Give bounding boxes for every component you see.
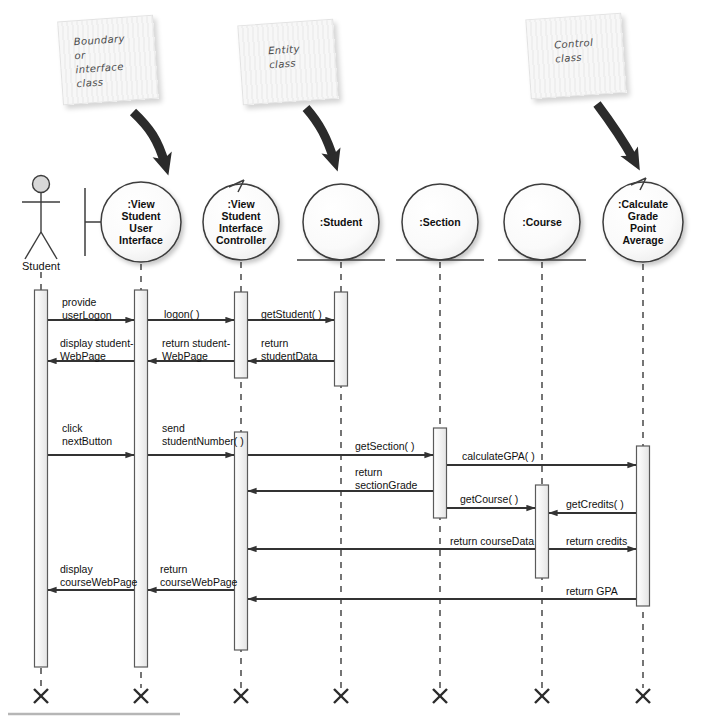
- note-control: Control class: [525, 13, 626, 100]
- msg-return-credits-label: return credits: [566, 535, 627, 548]
- note-boundary: Boundary or interface class: [57, 15, 159, 105]
- terminator-view-student-interface-controller: [234, 689, 248, 703]
- terminator-view-student-user-interface: [134, 689, 148, 703]
- note-arrow-control: [597, 104, 634, 160]
- terminator-calculate-grade-point-average: [636, 689, 650, 703]
- msg-display-studentwebpage-label: display student- WebPage: [60, 337, 134, 362]
- actor-student-actor: [22, 176, 60, 260]
- terminator-course: [535, 689, 549, 703]
- lifeline-head-view-student-user-interface: [85, 182, 181, 262]
- msg-send-studentnumber-label: send studentNumber( ): [162, 422, 244, 447]
- sequence-diagram-canvas: Boundary or interface classEntity classC…: [0, 0, 704, 723]
- terminator-student: [334, 689, 348, 703]
- msg-return-gpa-label: return GPA: [566, 585, 618, 598]
- msg-return-coursewebpage-label: return courseWebPage: [160, 563, 237, 588]
- lifeline-terminators: [34, 689, 650, 703]
- note-pointer-arrows: [133, 104, 634, 164]
- activation-bar-view-student-user-interface-1: [135, 290, 148, 667]
- lifeline-heads: [22, 176, 683, 263]
- note-entity-text: Entity class: [268, 42, 301, 72]
- msg-display-coursewebpage-label: display courseWebPage: [60, 563, 137, 588]
- note-arrow-entity: [306, 108, 334, 160]
- note-control-text: Control class: [554, 36, 595, 67]
- note-boundary-text: Boundary or interface class: [73, 32, 128, 91]
- msg-return-sectiongrade-label: return sectionGrade: [355, 466, 417, 491]
- msg-return-coursedata-label: return courseData: [450, 535, 534, 548]
- lifeline-head-view-student-interface-controller: [203, 180, 279, 260]
- msg-return-studentdata-label: return studentData: [261, 337, 318, 362]
- msg-provide-userlogon-label: provide userLogon: [62, 296, 112, 321]
- msg-logon-label: logon( ): [164, 308, 200, 321]
- msg-getsection-label: getSection( ): [355, 440, 415, 453]
- msg-getcredits-label: getCredits( ): [566, 498, 624, 511]
- lifeline-head-student: [297, 184, 385, 260]
- activation-bar-section-5: [434, 428, 447, 518]
- msg-calculategpa-label: calculateGPA( ): [462, 450, 535, 463]
- lifeline-head-section: [396, 184, 484, 260]
- lifeline-head-course: [498, 184, 586, 260]
- activation-bar-calculate-grade-point-average-7: [637, 446, 650, 606]
- msg-getcourse-label: getCourse( ): [460, 493, 518, 506]
- terminator-section: [433, 689, 447, 703]
- lifeline-head-calculate-grade-point-average: [603, 178, 683, 262]
- msg-click-nextbutton-label: click nextButton: [62, 422, 112, 447]
- msg-return-studentwebpage-label: return student- WebPage: [162, 337, 230, 362]
- note-entity: Entity class: [237, 19, 338, 106]
- activation-bar-student-4: [335, 292, 348, 386]
- lifeline-label-student-actor: Student: [0, 260, 91, 272]
- note-arrow-boundary: [133, 112, 165, 164]
- activation-bar-view-student-interface-controller-2: [235, 292, 248, 378]
- activation-bar-course-6: [536, 485, 549, 578]
- msg-getstudent-label: getStudent( ): [261, 308, 322, 321]
- activation-bar-view-student-interface-controller-3: [235, 432, 248, 650]
- activation-bar-student-actor-0: [35, 290, 48, 667]
- terminator-student-actor: [34, 689, 48, 703]
